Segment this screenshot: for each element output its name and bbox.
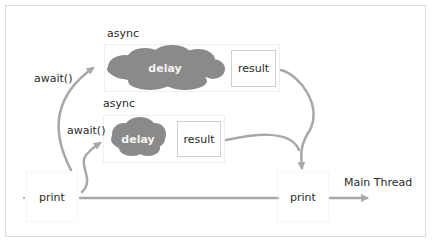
- print-node-end: print: [277, 172, 329, 222]
- result-box-upper: result: [231, 50, 276, 87]
- async-label-lower: async: [103, 98, 135, 110]
- await-label-lower: await(): [67, 125, 105, 137]
- result-arrow-upper: [281, 70, 313, 168]
- await-label-upper: await(): [34, 73, 72, 85]
- delay-label-upper: delay: [110, 56, 220, 80]
- async-label-upper: async: [107, 28, 139, 40]
- result-arrow-lower: [226, 135, 299, 150]
- result-box-lower: result: [177, 121, 221, 157]
- delay-label-lower: delay: [112, 128, 164, 150]
- print-node-start: print: [26, 172, 78, 222]
- main-thread-label: Main Thread: [344, 177, 412, 189]
- bullet-dot: [23, 197, 25, 199]
- await-arrow-lower: [82, 143, 100, 192]
